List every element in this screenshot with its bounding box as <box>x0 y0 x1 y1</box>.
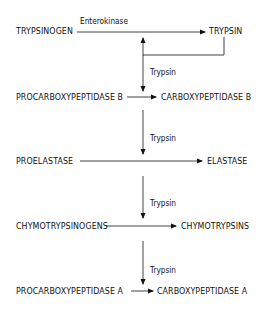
enzyme-trypsin-3: Trypsin <box>150 199 176 209</box>
diagram-canvas: TRYPSINOGEN Enterokinase TRYPSIN Trypsin… <box>0 0 271 315</box>
trypsin-feedback-connector <box>143 37 224 55</box>
enzyme-trypsin-4: Trypsin <box>150 266 176 276</box>
substrate-proelastase: PROELASTASE <box>16 156 73 166</box>
product-trypsin: TRYPSIN <box>209 26 242 36</box>
substrate-trypsinogen: TRYPSINOGEN <box>16 26 73 36</box>
enzyme-trypsin-1: Trypsin <box>150 68 176 78</box>
product-carboxypeptidase-b: CARBOXYPEPTIDASE B <box>161 92 251 102</box>
substrate-procarboxypeptidase-a: PROCARBOXYPEPTIDASE A <box>16 286 123 296</box>
substrate-procarboxypeptidase-b: PROCARBOXYPEPTIDASE B <box>16 92 123 102</box>
enzyme-enterokinase: Enterokinase <box>80 17 128 27</box>
substrate-chymotrypsinogens: CHYMOTRYPSINOGENS <box>16 221 108 231</box>
enzyme-trypsin-2: Trypsin <box>150 134 176 144</box>
product-elastase: ELASTASE <box>207 156 247 166</box>
product-chymotrypsins: CHYMOTRYPSINS <box>181 221 249 231</box>
product-carboxypeptidase-a: CARBOXYPEPTIDASE A <box>157 286 247 296</box>
